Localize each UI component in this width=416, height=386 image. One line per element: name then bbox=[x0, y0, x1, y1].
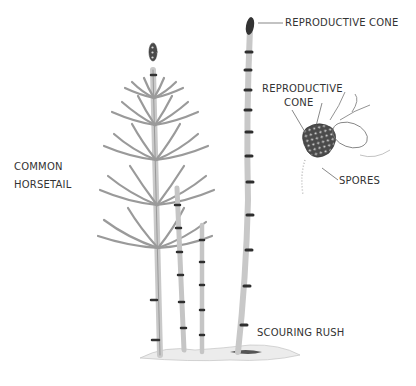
horsetail-illustration bbox=[0, 0, 416, 386]
scouring-rush-small-stems bbox=[175, 188, 204, 352]
cone-icon bbox=[244, 16, 255, 35]
cone-icon bbox=[149, 43, 157, 61]
label-reproductive-cone-top: REPRODUCTIVE CONE bbox=[285, 16, 399, 30]
label-reproductive-cone-detail-2: CONE bbox=[284, 96, 313, 110]
label-common-horsetail-2: HORSETAIL bbox=[14, 178, 72, 192]
label-common-horsetail-1: COMMON bbox=[14, 160, 63, 174]
label-scouring-rush: SCOURING RUSH bbox=[257, 326, 345, 340]
scouring-rush-plant bbox=[238, 16, 256, 352]
label-spores: SPORES bbox=[339, 174, 380, 188]
ground-mound bbox=[140, 345, 300, 361]
common-horsetail-plant bbox=[98, 43, 214, 355]
label-reproductive-cone-detail-1: REPRODUCTIVE bbox=[262, 82, 343, 96]
